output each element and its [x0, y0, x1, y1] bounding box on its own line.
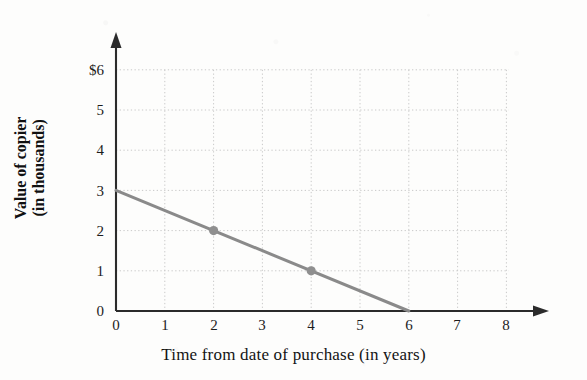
- x-tick-label-1: 1: [153, 318, 177, 333]
- x-tick-label-2: 2: [202, 318, 226, 333]
- y-axis-arrow-icon: [111, 32, 122, 48]
- x-axis-title: Time from date of purchase (in years): [0, 345, 587, 365]
- y-tick-label-3: 3: [62, 184, 104, 199]
- x-tick-label-4: 4: [299, 318, 323, 333]
- x-tick-label-5: 5: [348, 318, 372, 333]
- x-tick-label-6: 6: [397, 318, 421, 333]
- data-point-marker[interactable]: [307, 266, 316, 275]
- x-tick-label-3: 3: [250, 318, 274, 333]
- chart-page: $6 5 4 3 2 1 0 0 1 2 3 4 5 6 7 8 Time fr…: [0, 0, 587, 380]
- y-tick-label-1: 1: [62, 264, 104, 279]
- y-tick-label-2: 2: [62, 224, 104, 239]
- y-tick-label-6: $6: [62, 63, 104, 78]
- y-tick-label-4: 4: [62, 143, 104, 158]
- y-axis-title-line-1: Value of copier: [12, 68, 30, 268]
- x-tick-label-0: 0: [104, 318, 128, 333]
- y-tick-label-5: 5: [62, 103, 104, 118]
- x-tick-label-7: 7: [445, 318, 469, 333]
- data-point-marker[interactable]: [209, 226, 218, 235]
- y-axis-title: Value of copier (in thousands): [12, 68, 48, 268]
- x-axis-arrow-icon: [533, 306, 549, 317]
- x-tick-label-8: 8: [494, 318, 518, 333]
- y-tick-label-0: 0: [62, 304, 104, 319]
- y-axis-title-line-2: (in thousands): [30, 68, 48, 268]
- axes: [111, 32, 550, 317]
